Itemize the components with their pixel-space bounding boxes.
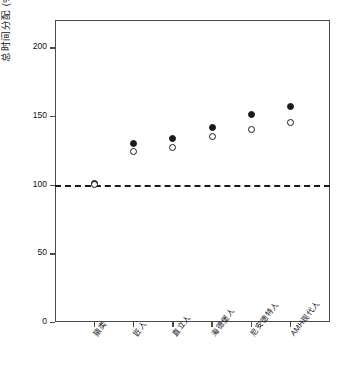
y-tick-mark xyxy=(50,322,55,323)
y-tick-label: 200 xyxy=(33,41,47,51)
y-tick-mark xyxy=(50,253,55,254)
plot-area xyxy=(55,20,330,322)
data-point-open-circle-0 xyxy=(91,181,98,188)
y-tick-mark xyxy=(50,47,55,48)
y-tick-label: 150 xyxy=(33,110,47,120)
y-tick-50: 50 xyxy=(0,253,55,254)
y-tick-0: 0 xyxy=(0,322,55,323)
y-tick-label: 50 xyxy=(38,247,47,257)
chart-figure: 总时间分配 (%) 050100150200 猿类匠人直立人海德堡人尼安德特人A… xyxy=(0,0,346,388)
data-point-filled-circle-3 xyxy=(209,124,216,131)
y-tick-label: 100 xyxy=(33,179,47,189)
data-point-open-circle-3 xyxy=(209,133,216,140)
y-tick-200: 200 xyxy=(0,47,55,48)
y-tick-100: 100 xyxy=(0,185,55,186)
y-tick-label: 0 xyxy=(42,316,47,326)
data-point-filled-circle-2 xyxy=(169,135,176,142)
y-tick-mark xyxy=(50,116,55,117)
y-tick-150: 150 xyxy=(0,116,55,117)
